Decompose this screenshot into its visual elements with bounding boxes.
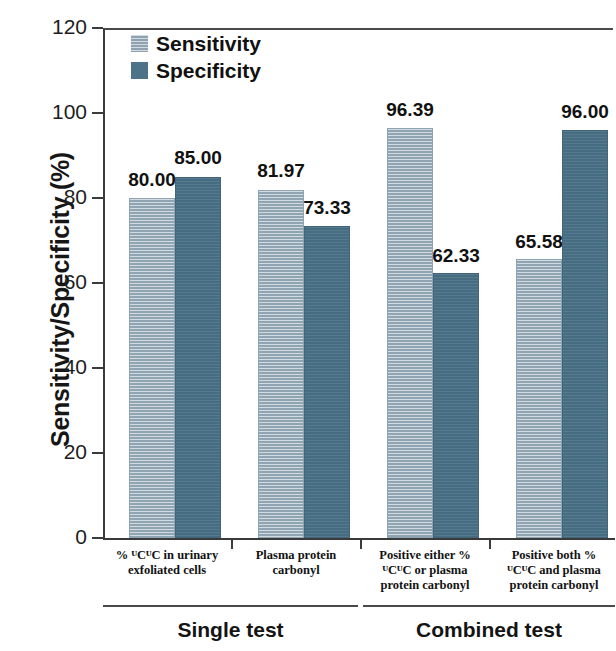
category-label-2-line2: ᵁCᵁC or plasma [361,563,489,578]
bar-g2-specificity [433,273,479,538]
bar-value-label-g0-specificity: 85.00 [161,147,235,169]
bar-g3-specificity [562,130,608,538]
y-tick-label-40: 40 [64,355,87,379]
bar-g3-sensitivity [516,259,562,538]
bar-group-3: 65.58 96.00 [504,28,616,538]
y-tick-mark-100 [92,112,103,114]
category-label-3-line1: Positive both % [490,548,616,563]
category-label-0: % ᵁCᵁC in urinary exfoliated cells [103,548,231,578]
bars-layer: 80.00 85.00 81.97 73.33 96.39 62.33 65.5… [103,28,615,538]
y-tick-mark-40 [92,367,103,369]
category-label-3-line2: ᵁCᵁC and plasma [490,563,616,578]
group-rule-combined-test [363,605,615,607]
group-rule-single-test [103,605,358,607]
y-tick-label-0: 0 [75,525,87,549]
bar-group-2: 96.39 62.33 [375,28,503,538]
x-axis-category-labels: % ᵁCᵁC in urinary exfoliated cells Plasm… [103,548,615,600]
bar-g0-specificity [175,177,221,538]
category-label-3: Positive both % ᵁCᵁC and plasma protein … [490,548,616,593]
y-tick-mark-0 [92,537,103,539]
y-tick-label-100: 100 [52,100,87,124]
bar-g1-sensitivity [258,190,304,538]
category-label-3-line3: protein carbonyl [490,578,616,593]
bar-g2-sensitivity [387,128,433,538]
bar-g0-sensitivity [129,198,175,538]
bar-chart-figure: Sensitivity/Specificity (%) 120 100 80 6… [0,0,616,651]
bar-value-label-g2-sensitivity: 96.39 [373,99,447,121]
category-label-1-line2: carbonyl [232,563,360,578]
bar-value-label-g3-specificity: 96.00 [548,101,616,123]
y-tick-label-20: 20 [64,440,87,464]
y-tick-mark-60 [92,282,103,284]
bar-g1-specificity [304,226,350,538]
category-label-0-line1: % ᵁCᵁC in urinary [103,548,231,563]
category-label-1-line1: Plasma protein [232,548,360,563]
category-label-0-line2: exfoliated cells [103,563,231,578]
category-label-2-line1: Positive either % [361,548,489,563]
y-tick-label-60: 60 [64,270,87,294]
category-label-2-line3: protein carbonyl [361,578,489,593]
bar-group-1: 81.97 73.33 [246,28,374,538]
y-tick-mark-20 [92,452,103,454]
y-tick-mark-120 [92,27,103,29]
bar-group-0: 80.00 85.00 [117,28,245,538]
bar-value-label-g1-sensitivity: 81.97 [244,160,318,182]
x-axis-line [103,538,615,540]
y-tick-label-120: 120 [52,15,87,39]
y-tick-label-80: 80 [64,185,87,209]
group-label-combined-test: Combined test [363,618,615,642]
y-tick-mark-80 [92,197,103,199]
category-label-2: Positive either % ᵁCᵁC or plasma protein… [361,548,489,593]
category-label-1: Plasma protein carbonyl [232,548,360,578]
group-label-single-test: Single test [103,618,358,642]
